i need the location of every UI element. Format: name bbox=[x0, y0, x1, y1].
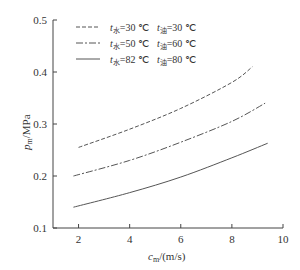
x-tick-label: 8 bbox=[229, 233, 235, 245]
x-axis-label: cm/(m/s) bbox=[148, 250, 186, 264]
legend-entry-1: t水=30 ℃t油=30 ℃ bbox=[110, 22, 196, 35]
legend-entry-2: t水=50 ℃t油=60 ℃ bbox=[110, 38, 196, 51]
curves bbox=[73, 67, 267, 207]
chart: 0.10.20.30.40.5 246810 t水=30 ℃t油=30 ℃ t水… bbox=[0, 0, 300, 270]
curve-dashed bbox=[79, 67, 253, 148]
y-tick-label: 0.1 bbox=[33, 222, 47, 234]
legend-entry-3: t水=82 ℃t油=80 ℃ bbox=[110, 54, 196, 67]
legend: t水=30 ℃t油=30 ℃ t水=50 ℃t油=60 ℃ t水=82 ℃t油=… bbox=[76, 22, 196, 67]
x-tick-label: 10 bbox=[278, 233, 290, 245]
y-tick-label: 0.5 bbox=[33, 14, 47, 26]
x-tick-label: 2 bbox=[76, 233, 82, 245]
y-tick-label: 0.2 bbox=[33, 170, 47, 182]
y-tick-label: 0.3 bbox=[33, 118, 47, 130]
y-tick-label: 0.4 bbox=[33, 66, 47, 78]
y-axis-label: pm/MPa bbox=[20, 114, 34, 151]
x-ticks: 246810 bbox=[76, 224, 289, 245]
x-tick-label: 6 bbox=[178, 233, 184, 245]
curve-solid bbox=[73, 143, 267, 207]
x-tick-label: 4 bbox=[127, 233, 133, 245]
